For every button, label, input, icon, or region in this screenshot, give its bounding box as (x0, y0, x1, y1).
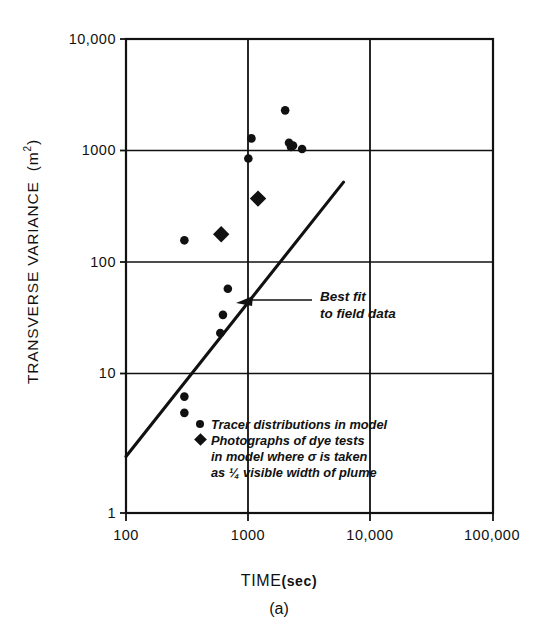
x-axis-title: TIME(sec) (0, 572, 558, 590)
diamond-marker-icon (196, 433, 211, 448)
data-point-circle (216, 329, 225, 338)
x-tick-10000: 10,000 (320, 527, 420, 543)
x-tick-100: 100 (86, 527, 166, 543)
best-fit-annotation: Best fit to field data (320, 289, 396, 323)
data-point-diamond (250, 190, 266, 206)
diamond-data-points (213, 190, 266, 242)
figure-panel-a: 10,000 1000 100 10 1 100 1000 10,000 100… (0, 0, 558, 634)
legend-entry-tracer-label: Tracer distributions in model (211, 417, 387, 433)
legend-entry-photographs: Photographs of dye tests (196, 433, 387, 449)
legend-entry-photographs-line2: in model where σ is taken (211, 449, 387, 465)
panel-caption: (a) (0, 600, 558, 618)
legend: Tracer distributions in model Photograph… (196, 417, 387, 481)
data-point-diamond (213, 226, 229, 242)
x-tick-1000: 1000 (204, 527, 292, 543)
data-point-circle (180, 409, 189, 418)
y-tick-10000: 10,000 (28, 31, 116, 47)
y-axis-unit: m (24, 151, 41, 165)
data-point-circle (298, 145, 307, 154)
data-point-circle (219, 311, 228, 320)
x-axis-unit: (sec) (281, 573, 317, 589)
circle-marker-icon (196, 417, 211, 432)
y-tick-1: 1 (28, 505, 116, 521)
data-point-circle (247, 134, 256, 143)
x-axis-title-text: TIME (241, 572, 282, 589)
data-point-circle (244, 154, 253, 163)
data-point-circle (180, 392, 189, 401)
x-tick-100000: 100,000 (440, 527, 544, 543)
legend-entry-tracer: Tracer distributions in model (196, 417, 387, 433)
y-axis-unit-exponent: 2 (22, 145, 33, 151)
data-point-circle (289, 141, 298, 150)
y-axis-title-text: TRANSVERSE VARIANCE (24, 181, 41, 384)
data-point-circle (281, 106, 290, 115)
data-point-circle (180, 236, 189, 245)
y-gridlines (126, 151, 493, 374)
legend-entry-photographs-label: Photographs of dye tests (211, 433, 365, 449)
best-fit-annotation-line2: to field data (320, 306, 396, 323)
y-axis-title: TRANSVERSE VARIANCE (m2) (22, 112, 41, 412)
legend-entry-photographs-line3: as ¼ visible width of plume (211, 465, 387, 481)
best-fit-line (126, 182, 344, 456)
data-point-circle (224, 284, 233, 293)
best-fit-annotation-line1: Best fit (320, 289, 396, 306)
